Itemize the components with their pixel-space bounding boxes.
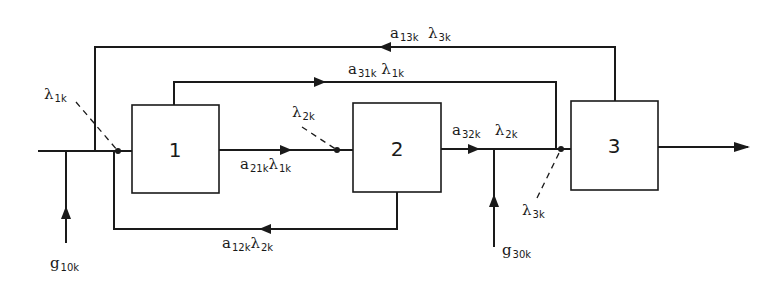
label-a31k-lambda-1k: a31k λ1k (348, 62, 404, 79)
label-a12k-lambda-2k: a12kλ2k (222, 236, 273, 253)
leader-lambda-1k (76, 102, 118, 151)
leader-lambda-2k (302, 127, 337, 150)
block-3-label: 3 (608, 134, 621, 158)
label-g10k: g10k (50, 256, 79, 273)
arrow-a32k-icon (468, 144, 480, 154)
label-lambda-2k: λ2k (292, 105, 315, 122)
arrow-a31k-icon (314, 77, 326, 87)
arrow-g30k-icon (489, 194, 499, 207)
junction-dot-1 (115, 148, 121, 154)
arrow-output-icon (734, 142, 750, 152)
label-g30k: g30k (502, 243, 531, 260)
label-lambda-3k: λ3k (522, 203, 545, 220)
label-lambda-1k: λ1k (44, 87, 67, 104)
block-2-label: 2 (391, 137, 404, 161)
arrow-a21k-icon (280, 145, 292, 155)
label-a21k-lambda-1k: a21kλ1k (240, 157, 291, 174)
arrow-a12k-icon (259, 224, 271, 234)
junction-dot-3 (558, 146, 564, 152)
leader-lambda-3k (537, 149, 561, 198)
label-a13k-lambda-3k: a13k λ3k (390, 26, 451, 43)
arrow-g10k-icon (61, 206, 71, 219)
label-a32k-lambda-2k: a32k λ2k (452, 123, 517, 140)
block-1-label: 1 (169, 138, 182, 162)
arrow-a13k-icon (379, 42, 391, 52)
